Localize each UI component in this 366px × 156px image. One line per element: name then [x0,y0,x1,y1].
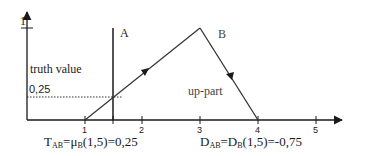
x-tick-label-2: 2 [139,126,144,135]
triangle-b-label: B [218,28,226,40]
distance-formula: DAB=DB(1,5)=-0,75 [200,135,302,148]
line-a-label: A [120,27,129,39]
distance-formula-db: =D [221,134,238,149]
truth-formula-rest: (1,5)=0,25 [83,134,138,149]
falling-edge-arrow-icon [226,72,234,80]
distance-formula-d-sub: AB [209,141,220,150]
y-marked-value-label: 0,25 [29,84,50,95]
truth-formula-mu: =μ [63,134,77,149]
diagram-canvas [0,0,366,156]
distance-formula-d: D [200,134,209,149]
triangle-b-rising-edge [85,28,200,120]
truth-formula: TAB=μB(1,5)=0,25 [44,135,138,148]
y-axis-label: truth value [30,63,82,75]
distance-formula-rest: (1,5)=-0,75 [243,134,302,149]
truth-formula-t-sub: AB [52,141,63,150]
fuzzy-triangle-diagram: 1 truth value 0,25 1 2 3 4 5 A B up-part… [0,0,366,156]
x-tick-label-5: 5 [313,126,318,135]
truth-formula-t: T [44,134,52,149]
y-top-tick-label: 1 [20,15,26,27]
up-part-label: up-part [188,85,223,97]
